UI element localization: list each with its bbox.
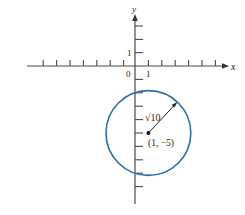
x-axis: x [27,60,236,72]
y-axis-label: y [131,4,136,14]
x-axis-label: x [230,61,236,72]
x-axis-ticks [43,60,215,66]
x-axis-arrow-icon [222,63,229,69]
coordinate-plane-diagram: x y 0 1 1 √10 (1, −5) [0,0,245,215]
y-axis-ticks [135,26,143,187]
radius-label: √10 [145,112,161,123]
y-axis-arrow-icon [132,14,138,21]
y-unit-label: 1 [127,48,132,58]
circle-graph: √10 (1, −5) [106,91,191,176]
center-point [146,131,150,135]
x-unit-label: 1 [146,69,151,79]
center-label: (1, −5) [148,138,174,149]
origin-label: 0 [126,69,131,79]
